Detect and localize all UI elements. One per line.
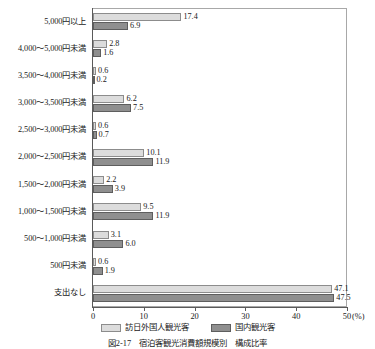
category-label: 4,000～5,000円未満 <box>18 44 86 54</box>
x-axis-unit-label: (%) <box>352 312 365 322</box>
chart-category-row: 2,000～2,500円未満10.111.9 <box>0 144 375 171</box>
x-tick-label: 30 <box>241 312 249 322</box>
chart-category-row: 1,500～2,000円未満2.23.9 <box>0 171 375 198</box>
chart-category-row: 3,500～4,000円未満0.60.2 <box>0 62 375 89</box>
x-tick-mark <box>144 307 145 311</box>
bar-inbound <box>93 13 181 21</box>
bar-domestic <box>93 49 101 57</box>
x-axis-ticks: 01020304050 <box>0 307 375 308</box>
legend-label: 訪日外国人観光客 <box>125 323 189 333</box>
bar-value-label: 10.1 <box>146 149 160 157</box>
bar-domestic <box>93 294 334 302</box>
legend-item: 訪日外国人観光客 <box>101 323 189 333</box>
bar-inbound <box>93 67 96 75</box>
bar-inbound <box>93 122 96 130</box>
category-label: 3,000～3,500円未満 <box>18 98 86 108</box>
bar-value-label: 3.9 <box>115 185 125 193</box>
chart-category-row: 3,000～3,500円未満6.27.5 <box>0 90 375 117</box>
x-tick-mark <box>245 307 246 311</box>
x-tick-mark <box>93 307 94 311</box>
bar-inbound <box>93 231 109 239</box>
category-label: 支出なし <box>54 288 86 298</box>
bar-domestic <box>93 185 113 193</box>
category-label: 3,500～4,000円未満 <box>18 71 86 81</box>
chart-category-row: 4,000～5,000円未満2.81.6 <box>0 35 375 62</box>
bar-domestic <box>93 22 128 30</box>
bar-domestic <box>93 267 103 275</box>
x-tick-mark <box>347 307 348 311</box>
bar-value-label: 1.6 <box>103 49 113 57</box>
bar-value-label: 6.2 <box>126 95 136 103</box>
bar-value-label: 17.4 <box>183 13 197 21</box>
chart-category-row: 500円未満0.61.9 <box>0 253 375 280</box>
bar-value-label: 47.5 <box>336 294 350 302</box>
bar-value-label: 0.6 <box>98 122 108 130</box>
bar-value-label: 6.0 <box>125 240 135 248</box>
bar-value-label: 6.9 <box>130 22 140 30</box>
bar-value-label: 2.8 <box>109 40 119 48</box>
chart-category-row: 500～1,000円未満3.16.0 <box>0 225 375 252</box>
bar-inbound <box>93 285 332 293</box>
x-tick-label: 10 <box>140 312 148 322</box>
category-label: 500～1,000円未満 <box>24 234 86 244</box>
bar-value-label: 0.6 <box>98 67 108 75</box>
bar-value-label: 2.2 <box>106 176 116 184</box>
chart-legend: 訪日外国人観光客国内観光客 <box>0 322 375 334</box>
x-tick-mark <box>195 307 196 311</box>
category-label: 2,500～3,000円未満 <box>18 125 86 135</box>
bar-domestic <box>93 240 123 248</box>
legend-item: 国内観光客 <box>211 323 275 333</box>
chart-category-row: 2,500～3,000円未満0.60.7 <box>0 117 375 144</box>
bar-value-label: 7.5 <box>133 104 143 112</box>
category-label: 1,500～2,000円未満 <box>18 180 86 190</box>
bar-value-label: 0.2 <box>97 76 107 84</box>
category-label: 500円未満 <box>50 261 86 271</box>
category-label: 1,000～1,500円未満 <box>18 207 86 217</box>
x-tick-mark <box>296 307 297 311</box>
bar-domestic <box>93 76 95 84</box>
bar-rows-group: 5,000円以上17.46.94,000～5,000円未満2.81.63,500… <box>0 8 375 307</box>
bar-domestic <box>93 212 153 220</box>
x-tick-label: 40 <box>292 312 300 322</box>
legend-label: 国内観光客 <box>235 323 275 333</box>
bar-value-label: 3.1 <box>111 231 121 239</box>
bar-inbound <box>93 258 96 266</box>
bar-domestic <box>93 104 131 112</box>
bar-value-label: 47.1 <box>334 285 348 293</box>
bar-value-label: 0.7 <box>99 131 109 139</box>
chart-category-row: 5,000円以上17.46.9 <box>0 8 375 35</box>
bar-inbound <box>93 176 104 184</box>
bar-domestic <box>93 158 153 166</box>
bar-inbound <box>93 95 124 103</box>
x-tick-label: 0 <box>91 312 95 322</box>
x-tick-label: 20 <box>190 312 198 322</box>
chart-category-row: 支出なし47.147.5 <box>0 280 375 307</box>
chart-container: 5,000円以上17.46.94,000～5,000円未満2.81.63,500… <box>0 0 375 349</box>
bar-value-label: 0.6 <box>98 258 108 266</box>
bar-inbound <box>93 40 107 48</box>
category-label: 2,000～2,500円未満 <box>18 152 86 162</box>
x-tick-label: 50 <box>343 312 351 322</box>
bar-value-label: 11.9 <box>155 158 169 166</box>
bar-inbound <box>93 149 144 157</box>
bar-value-label: 1.9 <box>105 267 115 275</box>
legend-swatch-icon <box>211 324 231 332</box>
bar-inbound <box>93 203 141 211</box>
legend-swatch-icon <box>101 324 121 332</box>
bar-domestic <box>93 131 97 139</box>
category-label: 5,000円以上 <box>44 17 86 27</box>
figure-caption: 図2-17 宿泊客観光消費額規模別 構成比率 <box>0 338 375 349</box>
chart-category-row: 1,000～1,500円未満9.511.9 <box>0 198 375 225</box>
bar-value-label: 11.9 <box>155 212 169 220</box>
bar-value-label: 9.5 <box>143 203 153 211</box>
